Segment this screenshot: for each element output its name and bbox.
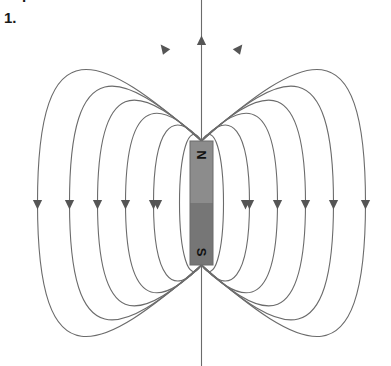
field-arrowhead — [157, 42, 170, 55]
field-arrowhead — [93, 200, 102, 210]
bar-magnet-field-diagram: N S — [0, 0, 391, 366]
field-line — [202, 100, 306, 306]
field-arrowhead — [329, 200, 338, 210]
field-arrowhead — [273, 200, 282, 210]
bar-magnet: N S — [190, 141, 213, 265]
field-line — [98, 100, 202, 306]
field-line — [70, 86, 202, 320]
field-arrowhead — [121, 200, 130, 210]
field-arrowhead — [33, 200, 42, 210]
field-arrowhead — [197, 35, 206, 45]
south-pole-label: S — [194, 248, 209, 257]
field-arrowhead — [233, 42, 246, 55]
field-arrowhead — [361, 200, 370, 210]
field-arrowhead — [65, 200, 74, 210]
field-line — [38, 70, 202, 337]
field-line — [202, 70, 366, 337]
north-pole-label: N — [194, 150, 209, 159]
figure-page: . 1. N S — [0, 0, 391, 366]
field-line — [202, 86, 334, 320]
field-arrowhead — [301, 200, 310, 210]
